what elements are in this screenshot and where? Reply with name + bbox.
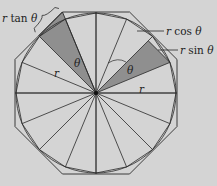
center-point bbox=[94, 91, 98, 95]
label-r-tan-theta: r tan θ bbox=[2, 13, 37, 24]
label-r-left: r bbox=[54, 68, 59, 79]
label-r-sin-theta: r sin θ bbox=[180, 45, 214, 56]
label-theta-right: θ bbox=[127, 65, 133, 76]
spoke bbox=[39, 93, 96, 150]
tan-word: tan bbox=[10, 12, 27, 24]
diagram-shapes bbox=[15, 8, 178, 174]
label-r-right: r bbox=[139, 84, 144, 95]
label-r-cos-theta: r cos θ bbox=[166, 26, 202, 37]
label-theta-left: θ bbox=[74, 58, 80, 69]
spoke bbox=[96, 93, 153, 150]
theta-symbol: θ bbox=[31, 12, 37, 24]
theta-arc bbox=[108, 60, 126, 63]
